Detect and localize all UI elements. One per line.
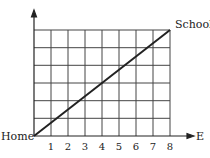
x-tick: 5: [116, 141, 122, 152]
x-tick: 4: [99, 141, 105, 152]
x-tick: 2: [65, 141, 71, 152]
x-axis-label: E: [196, 130, 204, 143]
route-diagram: Home School E 1 2 3 4 5 6 7 8: [0, 0, 210, 158]
x-tick-labels: 1 2 3 4 5 6 7 8: [48, 141, 173, 152]
school-label: School: [175, 18, 210, 31]
y-axis-arrow-icon: [32, 10, 37, 17]
x-tick: 3: [82, 141, 88, 152]
x-tick: 7: [150, 141, 156, 152]
x-axis-arrow-icon: [187, 134, 194, 139]
home-label: Home: [1, 130, 34, 143]
x-tick: 8: [167, 141, 173, 152]
x-tick: 1: [48, 141, 54, 152]
x-tick: 6: [133, 141, 139, 152]
